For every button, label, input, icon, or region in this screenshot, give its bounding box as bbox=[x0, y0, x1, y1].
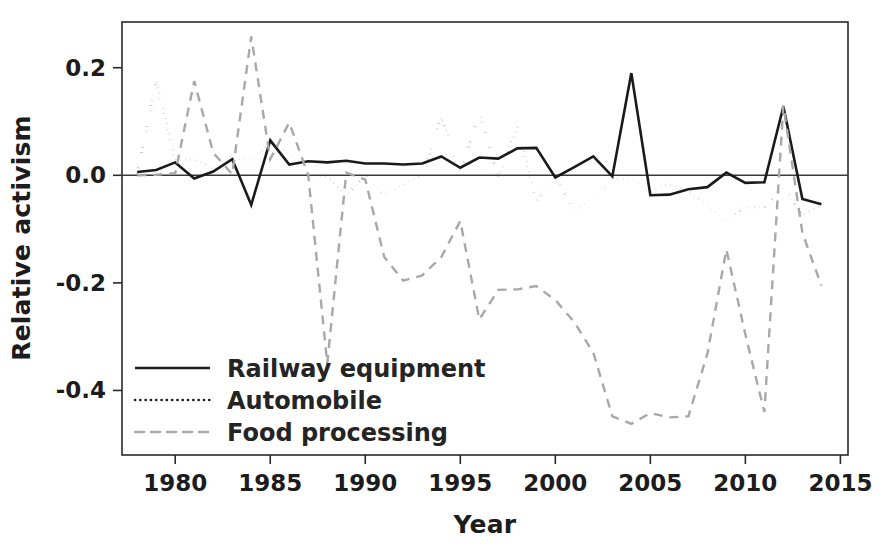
y-tick-label: 0.2 bbox=[65, 55, 106, 81]
chart-canvas: 0.20.0-0.2-0.4 1980198519901995200020052… bbox=[0, 0, 896, 554]
x-axis-title: Year bbox=[453, 510, 517, 539]
x-tick-label: 2010 bbox=[713, 470, 777, 496]
chart-figure: 0.20.0-0.2-0.4 1980198519901995200020052… bbox=[0, 0, 896, 554]
legend-label: Railway equipment bbox=[227, 355, 486, 383]
x-tick-label: 1980 bbox=[143, 470, 207, 496]
legend-label: Automobile bbox=[227, 387, 382, 415]
x-tick-label: 1990 bbox=[333, 470, 397, 496]
x-tick-label: 2000 bbox=[523, 470, 587, 496]
y-tick-label: -0.2 bbox=[56, 270, 106, 296]
legend-label: Food processing bbox=[227, 419, 448, 447]
x-tick-label: 1995 bbox=[428, 470, 492, 496]
x-tick-label: 2005 bbox=[618, 470, 682, 496]
y-tick-label: 0.0 bbox=[65, 162, 106, 188]
y-tick-label: -0.4 bbox=[56, 377, 106, 403]
x-tick-label: 1985 bbox=[238, 470, 302, 496]
x-tick-label: 2015 bbox=[808, 470, 872, 496]
y-axis-title: Relative activism bbox=[7, 115, 36, 361]
